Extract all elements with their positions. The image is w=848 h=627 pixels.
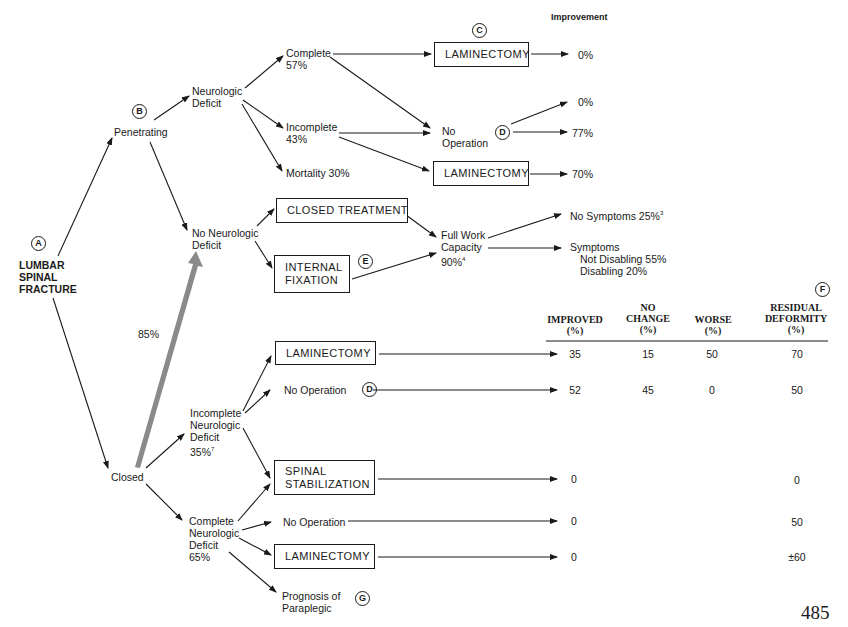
row2-residual: 50 xyxy=(777,384,817,396)
laminectomy-box-top: LAMINECTOMY xyxy=(434,42,529,67)
root-title: LUMBAR SPINAL FRACTURE xyxy=(19,259,77,295)
no-operation-label: No Operation xyxy=(442,125,488,149)
marker-e: E xyxy=(358,254,373,269)
row4-improved: 0 xyxy=(554,515,594,527)
laminectomy-box-closed-2: LAMINECTOMY xyxy=(274,544,375,569)
marker-d-top: D xyxy=(495,125,510,140)
incomplete-43-label: Incomplete 43% xyxy=(286,121,337,145)
header-improved: IMPROVED (%) xyxy=(543,314,607,336)
prognosis-label: Prognosis of Paraplegic xyxy=(282,590,340,614)
row2-improved: 52 xyxy=(555,384,595,396)
page-number: 485 xyxy=(801,602,830,624)
row1-no-change: 15 xyxy=(628,348,668,360)
outcome-incomplete-laminectomy: 70% xyxy=(572,168,593,180)
marker-g: G xyxy=(355,591,370,606)
closed-treatment-box: CLOSED TREATMENT xyxy=(276,198,408,223)
outcome-no-op-a: 0% xyxy=(578,96,593,108)
outcome-no-op-b: 77% xyxy=(572,127,593,139)
laminectomy-box-mid: LAMINECTOMY xyxy=(433,161,529,186)
row5-residual: ±60 xyxy=(777,551,817,563)
laminectomy-box-closed-1: LAMINECTOMY xyxy=(275,341,376,365)
internal-fixation-box: INTERNAL FIXATION xyxy=(274,255,350,293)
full-work-capacity-label: Full Work Capacity 90%4 xyxy=(441,229,485,268)
row1-residual: 70 xyxy=(777,348,817,360)
spinal-stabilization-box: SPINAL STABILIZATION xyxy=(274,460,375,495)
marker-a: A xyxy=(31,236,46,251)
marker-b: B xyxy=(132,104,147,119)
no-operation-closed-2: No Operation xyxy=(283,516,345,528)
row1-worse: 50 xyxy=(692,348,732,360)
row3-residual: 0 xyxy=(777,474,817,486)
row2-no-change: 45 xyxy=(628,384,668,396)
not-disabling-label: Not Disabling 55% xyxy=(580,253,666,265)
mortality-label: Mortality 30% xyxy=(286,167,350,179)
marker-c: C xyxy=(472,23,487,38)
incomplete-neuro-label: Incomplete Neurologic Deficit 35%7 xyxy=(190,407,241,458)
row2-worse: 0 xyxy=(692,384,732,396)
outcome-complete-laminectomy: 0% xyxy=(578,49,593,61)
complete-neuro-label: Complete Neurologic Deficit 65% xyxy=(189,515,239,563)
closed-label: Closed xyxy=(111,471,144,483)
row1-improved: 35 xyxy=(555,348,595,360)
complete-57-label: Complete 57% xyxy=(286,47,331,71)
marker-f: F xyxy=(815,282,830,297)
header-no-change: NO CHANGE (%) xyxy=(620,302,676,335)
penetrating-label: Penetrating xyxy=(114,126,168,138)
improvement-header: Improvement xyxy=(551,11,608,23)
row5-improved: 0 xyxy=(554,551,594,563)
disabling-label: Disabling 20% xyxy=(580,265,647,277)
no-operation-closed-1: No Operation xyxy=(284,384,346,396)
header-residual-deformity: RESIDUAL DEFORMITY (%) xyxy=(760,302,832,335)
neurologic-deficit-label: Neurologic Deficit xyxy=(192,85,242,109)
symptoms-label: Symptoms xyxy=(570,241,620,253)
row3-improved: 0 xyxy=(554,473,594,485)
row4-residual: 50 xyxy=(777,516,817,528)
header-worse: WORSE (%) xyxy=(688,314,738,336)
big-arrow-percent: 85% xyxy=(138,328,159,340)
marker-d-closed: D xyxy=(362,382,377,397)
no-symptoms-label: No Symptoms 25%3 xyxy=(570,207,663,222)
no-neurologic-deficit-label: No Neurologic Deficit xyxy=(192,227,259,251)
